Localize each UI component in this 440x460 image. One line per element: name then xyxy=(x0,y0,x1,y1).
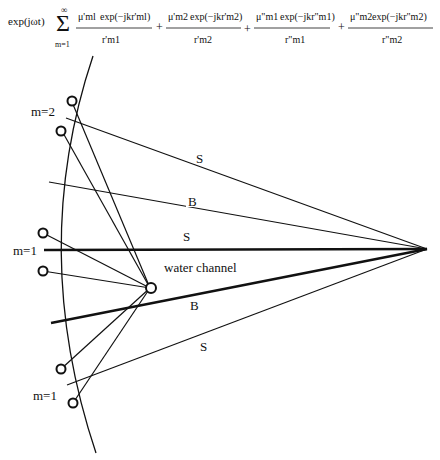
image-point-m2-b xyxy=(57,127,66,136)
ray-receiver-to-m2a xyxy=(72,102,150,288)
ray-b-bottom xyxy=(51,249,427,323)
image-point-m1-lower-b xyxy=(69,399,78,408)
image-point-m1-lower-a xyxy=(57,365,66,374)
ray-receiver-to-m2b xyxy=(62,131,150,288)
label-ray-s-top: S xyxy=(196,151,203,166)
label-ray-b-bottom: B xyxy=(190,298,199,313)
label-ray-s-bottom: S xyxy=(200,339,207,354)
label-water-channel: water channel xyxy=(164,260,237,275)
image-point-m1-upper-b xyxy=(39,267,48,276)
ray-s-bottom xyxy=(67,249,427,385)
label-m2: m=2 xyxy=(31,104,55,119)
ray-s-mid xyxy=(44,249,427,250)
ray-receiver-to-m1c xyxy=(61,288,150,369)
label-m1-lower: m=1 xyxy=(33,388,57,403)
label-m1-upper: m=1 xyxy=(13,243,37,258)
ray-b-top xyxy=(49,182,427,249)
ray-s-top xyxy=(66,118,427,249)
image-point-m1-upper-a xyxy=(39,229,48,238)
label-ray-b-top: B xyxy=(188,194,197,209)
receiver-circle xyxy=(146,283,156,293)
boundary-arc xyxy=(61,56,96,453)
ray-receiver-to-m1d xyxy=(73,288,150,403)
ray-diagram: m=2 m=1 m=1 S B S water channel B S xyxy=(0,0,440,460)
label-ray-s-mid: S xyxy=(183,229,190,244)
image-point-m2-a xyxy=(68,97,77,106)
